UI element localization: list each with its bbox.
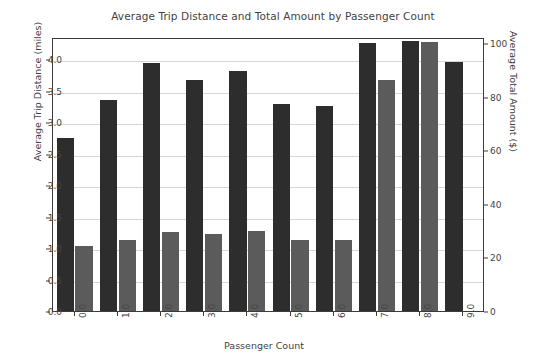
y-tick-left-1.5: 1.5 <box>16 213 62 223</box>
x-tick-2.0: 2.0 <box>164 304 174 318</box>
y-tick-left-3.5: 3.5 <box>16 87 62 97</box>
x-tickmark <box>160 312 161 316</box>
bar-trip-distance-4.0 <box>229 71 246 311</box>
x-tick-4.0: 4.0 <box>250 304 260 318</box>
x-tickmark <box>203 312 204 316</box>
bar-trip-distance-6.0 <box>316 106 333 311</box>
bar-total-amount-5.0 <box>291 240 308 311</box>
bar-trip-distance-9.0 <box>445 62 462 311</box>
x-tickmark <box>462 312 463 316</box>
y-tick-left-0.0: 0.0 <box>16 307 62 317</box>
x-tick-7.0: 7.0 <box>380 304 390 318</box>
bar-total-amount-4.0 <box>248 231 265 311</box>
x-tickmark <box>117 312 118 316</box>
y-tickmark-left <box>46 312 50 313</box>
y-tickmark-left <box>46 249 50 250</box>
y-tickmark-left <box>46 154 50 155</box>
y-tick-right-0: 0 <box>490 307 530 317</box>
bar-trip-distance-5.0 <box>273 104 290 311</box>
x-tickmark <box>376 312 377 316</box>
bar-trip-distance-3.0 <box>186 80 203 311</box>
plot-area <box>52 38 484 312</box>
chart-figure: Average Trip Distance and Total Amount b… <box>0 0 546 357</box>
y-tickmark-left <box>46 91 50 92</box>
y-tick-right-60: 60 <box>490 146 530 156</box>
x-axis-label: Passenger Count <box>44 340 484 351</box>
x-tick-1.0: 1.0 <box>121 304 131 318</box>
y-tick-right-20: 20 <box>490 253 530 263</box>
bar-trip-distance-7.0 <box>359 43 376 311</box>
chart-title: Average Trip Distance and Total Amount b… <box>0 10 546 22</box>
x-tickmark <box>290 312 291 316</box>
y-tickmark-left <box>46 280 50 281</box>
x-tick-3.0: 3.0 <box>207 304 217 318</box>
bar-total-amount-7.0 <box>378 80 395 311</box>
y-tickmark-right <box>484 204 488 205</box>
y-tickmark-right <box>484 151 488 152</box>
x-tick-5.0: 5.0 <box>294 304 304 318</box>
y-tickmark-left <box>46 60 50 61</box>
bar-total-amount-8.0 <box>421 42 438 311</box>
y-tick-left-2.5: 2.5 <box>16 150 62 160</box>
y-tick-right-40: 40 <box>490 200 530 210</box>
x-tickmark <box>246 312 247 316</box>
y-axis-label-left: Average Trip Distance (miles) <box>32 0 43 207</box>
y-tick-left-4.0: 4.0 <box>16 55 62 65</box>
bar-trip-distance-1.0 <box>100 100 117 311</box>
y-axis-label-right: Average Total Amount ($) <box>508 0 519 207</box>
x-tickmark <box>333 312 334 316</box>
y-tick-right-80: 80 <box>490 93 530 103</box>
y-tick-left-2.0: 2.0 <box>16 181 62 191</box>
bar-total-amount-0.0 <box>75 246 92 311</box>
bar-total-amount-1.0 <box>119 240 136 311</box>
x-tickmark <box>74 312 75 316</box>
x-tick-6.0: 6.0 <box>337 304 347 318</box>
y-tickmark-left <box>46 217 50 218</box>
y-tickmark-right <box>484 312 488 313</box>
y-tick-left-1.0: 1.0 <box>16 244 62 254</box>
y-tickmark-left <box>46 123 50 124</box>
bar-total-amount-3.0 <box>205 234 222 311</box>
bar-total-amount-2.0 <box>162 232 179 311</box>
x-tick-0.0: 0.0 <box>78 304 88 318</box>
y-tick-left-0.5: 0.5 <box>16 276 62 286</box>
bar-total-amount-6.0 <box>335 240 352 311</box>
bar-trip-distance-2.0 <box>143 63 160 311</box>
y-tickmark-right <box>484 44 488 45</box>
x-tickmark <box>419 312 420 316</box>
y-tickmark-right <box>484 97 488 98</box>
y-tickmark-left <box>46 186 50 187</box>
bar-trip-distance-8.0 <box>402 41 419 311</box>
x-tick-9.0: 9.0 <box>466 304 476 318</box>
y-tick-left-3.0: 3.0 <box>16 118 62 128</box>
y-tickmark-right <box>484 258 488 259</box>
y-tick-right-100: 100 <box>490 39 530 49</box>
x-tick-8.0: 8.0 <box>423 304 433 318</box>
